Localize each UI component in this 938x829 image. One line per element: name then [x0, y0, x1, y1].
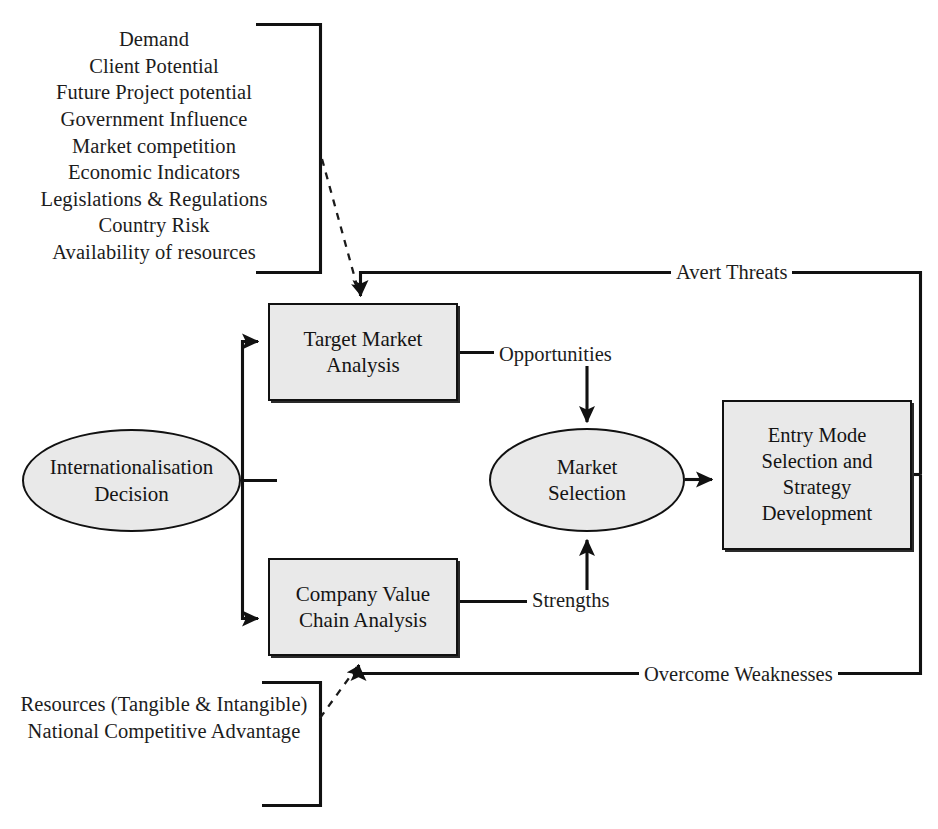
edge-decision-to-company	[243, 481, 259, 619]
node-internationalisation-decision[interactable]: Internationalisation Decision	[22, 429, 241, 532]
edge-label-opportunities: Opportunities	[494, 344, 617, 365]
internal-factors-list: Resources (Tangible & Intangible) Nation…	[14, 691, 314, 744]
edge-label-strengths: Strengths	[527, 590, 614, 611]
edge-internal-factors-dashed	[320, 667, 357, 718]
node-entry-mode-selection-and-strategy-development[interactable]: Entry Mode Selection and Strategy Develo…	[722, 400, 912, 550]
edge-label-overcome-weaknesses: Overcome Weaknesses	[639, 664, 838, 685]
edge-external-factors-dashed	[322, 159, 359, 293]
edge-label-avert-threats: Avert Threats	[671, 262, 792, 283]
external-factors-list: Demand Client Potential Future Project p…	[4, 26, 304, 266]
diagram-canvas: Demand Client Potential Future Project p…	[0, 0, 938, 829]
node-market-selection[interactable]: Market Selection	[489, 428, 685, 532]
edge-decision-to-target	[243, 342, 259, 481]
node-target-market-analysis[interactable]: Target Market Analysis	[268, 303, 458, 401]
node-company-value-chain-analysis[interactable]: Company Value Chain Analysis	[268, 558, 458, 656]
